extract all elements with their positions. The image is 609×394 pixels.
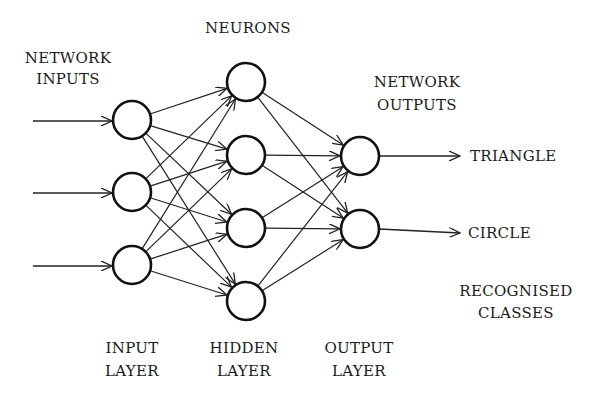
neurons-label: NEURONS xyxy=(205,19,291,37)
hidden-neuron-1 xyxy=(227,136,265,174)
hidden-neuron-0 xyxy=(227,63,265,101)
edge-input0-hidden0 xyxy=(150,88,227,114)
edge-input1-hidden0 xyxy=(146,96,232,179)
hidden-neuron-2 xyxy=(227,209,265,247)
edge-input2-hidden3 xyxy=(150,271,227,295)
edge-input2-hidden0 xyxy=(142,99,235,249)
network-inputs-label-line1: NETWORK xyxy=(25,49,112,67)
hidden-neuron-3 xyxy=(227,282,265,320)
hidden-layer-label-line1: HIDDEN xyxy=(210,339,279,357)
input-layer-label-line2: LAYER xyxy=(105,362,159,380)
recognised-classes-label-line2: CLASSES xyxy=(478,304,554,322)
class-label-circle: CIRCLE xyxy=(468,224,531,242)
network-inputs-label-line2: INPUTS xyxy=(36,70,100,88)
output-neuron-1 xyxy=(341,210,379,248)
neural-network-diagram: NEURONS NETWORK INPUTS NETWORK OUTPUTS T… xyxy=(0,0,609,394)
edge-input2-hidden1 xyxy=(146,169,232,252)
output-neuron-0 xyxy=(341,137,379,175)
output-layer-label-line1: OUTPUT xyxy=(324,339,393,357)
output-layer-label-line2: LAYER xyxy=(332,362,386,380)
recognised-classes-label-line1: RECOGNISED xyxy=(459,282,572,300)
edge-input2-hidden2 xyxy=(150,234,227,259)
input-layer-label-line1: INPUT xyxy=(105,339,158,357)
network-output-arrow-1 xyxy=(379,229,460,233)
class-label-triangle: TRIANGLE xyxy=(470,147,556,165)
edge-hidden1-output0 xyxy=(265,155,340,156)
network-outputs-label-line2: OUTPUTS xyxy=(377,96,457,114)
neuron-nodes xyxy=(113,63,379,320)
input-neuron-1 xyxy=(113,173,151,211)
network-outputs-label-line1: NETWORK xyxy=(374,73,461,91)
input-neuron-0 xyxy=(113,101,151,139)
input-neuron-2 xyxy=(113,246,151,284)
hidden-layer-label-line2: LAYER xyxy=(217,362,271,380)
connection-edges xyxy=(142,88,348,295)
